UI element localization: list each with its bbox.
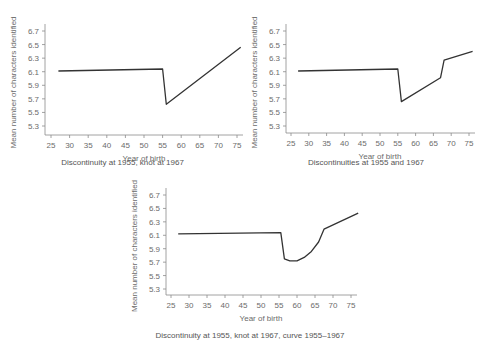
y-tick-label: 6.7 [149, 191, 161, 200]
x-tick-label: 55 [393, 139, 402, 148]
x-tick-label: 75 [465, 139, 474, 148]
x-tick-label: 30 [304, 139, 313, 148]
y-tick-label: 5.5 [149, 272, 161, 281]
y-tick-label: 6.7 [28, 27, 40, 36]
x-tick-label: 55 [158, 141, 167, 150]
y-tick-label: 5.7 [269, 95, 281, 104]
x-tick-label: 25 [287, 139, 296, 148]
data-line [58, 47, 240, 104]
y-tick-label: 5.9 [269, 81, 281, 90]
x-tick-label: 70 [329, 301, 338, 310]
x-tick-label: 35 [84, 141, 93, 150]
y-tick-label: 6.5 [149, 204, 161, 213]
x-tick-label: 45 [239, 301, 248, 310]
x-tick-label: 45 [358, 139, 367, 148]
y-tick-label: 6.7 [269, 27, 281, 36]
y-tick-label: 5.5 [28, 108, 40, 117]
chart-3: 5.35.55.75.96.16.36.56.72530354045505560… [130, 175, 370, 347]
y-tick-label: 6.1 [149, 231, 161, 240]
x-axis-label: Year of birth [240, 314, 283, 323]
y-tick-label: 6.1 [269, 68, 281, 77]
x-tick-label: 50 [140, 141, 149, 150]
chart-panel-1: 5.35.55.75.96.16.36.56.72530354045505560… [0, 0, 245, 175]
y-tick-label: 5.7 [149, 258, 161, 267]
y-axis-label: Mean number of characters identified [250, 16, 259, 148]
data-line [178, 213, 358, 261]
y-tick-label: 5.3 [149, 285, 161, 294]
x-tick-label: 40 [221, 301, 230, 310]
caption-2: Discontinuities at 1955 and 1967 [245, 158, 487, 167]
caption-1: Discontinuity at 1955, knot at 1967 [0, 158, 245, 167]
x-tick-label: 60 [411, 139, 420, 148]
x-tick-label: 35 [203, 301, 212, 310]
x-tick-label: 30 [185, 301, 194, 310]
x-tick-label: 40 [102, 141, 111, 150]
y-tick-label: 6.3 [28, 54, 40, 63]
y-tick-label: 6.5 [28, 41, 40, 50]
caption-3: Discontinuity at 1955, knot at 1967, cur… [130, 331, 370, 340]
x-tick-label: 50 [257, 301, 266, 310]
x-tick-label: 50 [376, 139, 385, 148]
y-tick-label: 5.3 [269, 122, 281, 131]
x-tick-label: 55 [275, 301, 284, 310]
y-tick-label: 5.9 [28, 81, 40, 90]
x-tick-label: 70 [214, 141, 223, 150]
chart-1: 5.35.55.75.96.16.36.56.72530354045505560… [0, 0, 245, 175]
y-tick-label: 5.9 [149, 245, 161, 254]
x-tick-label: 75 [347, 301, 356, 310]
x-tick-label: 25 [167, 301, 176, 310]
data-line [298, 51, 473, 101]
x-tick-label: 30 [65, 141, 74, 150]
x-tick-label: 65 [429, 139, 438, 148]
y-tick-label: 6.3 [149, 218, 161, 227]
y-tick-label: 5.5 [269, 108, 281, 117]
y-tick-label: 6.3 [269, 54, 281, 63]
x-tick-label: 45 [121, 141, 130, 150]
x-tick-label: 75 [233, 141, 242, 150]
y-axis-label: Mean number of characters identified [9, 16, 18, 148]
x-tick-label: 65 [195, 141, 204, 150]
y-axis-label: Mean number of characters identified [130, 180, 139, 312]
chart-2: 5.35.55.75.96.16.36.56.72530354045505560… [245, 0, 487, 175]
y-tick-label: 6.5 [269, 41, 281, 50]
chart-panel-2: 5.35.55.75.96.16.36.56.72530354045505560… [245, 0, 487, 175]
x-tick-label: 35 [322, 139, 331, 148]
x-tick-label: 60 [293, 301, 302, 310]
x-tick-label: 65 [311, 301, 320, 310]
x-tick-label: 25 [47, 141, 56, 150]
x-tick-label: 40 [340, 139, 349, 148]
chart-panel-3: 5.35.55.75.96.16.36.56.72530354045505560… [130, 175, 370, 347]
y-tick-label: 5.7 [28, 95, 40, 104]
x-tick-label: 70 [447, 139, 456, 148]
y-tick-label: 5.3 [28, 122, 40, 131]
y-tick-label: 6.1 [28, 68, 40, 77]
x-tick-label: 60 [177, 141, 186, 150]
